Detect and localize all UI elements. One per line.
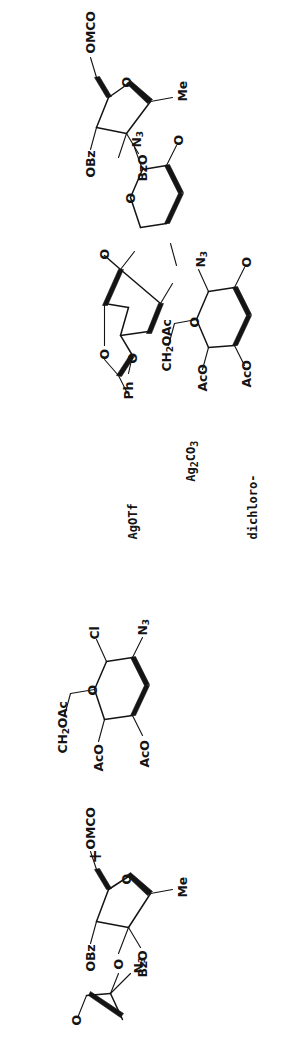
donor-chloride-label: Cl [88,626,101,639]
acceptor-omco-label: OMCO [84,807,97,849]
reagent-co: CO [183,446,197,460]
product-azide-left-subscript: 3 [198,251,208,257]
reaction-conditions: AgOTf Ag2CO3 dichloro- methane [96,440,285,539]
donor-aco-top-label: AcO [92,744,105,771]
product-ch2oac-label: CH2OAc [160,319,174,371]
product-aco-bottom-label: AcO [240,360,253,387]
donor-ch2oac-ch: CH [54,734,69,753]
acceptor-azide-n: N [130,963,145,973]
product-middle-ring-oxygen-label: O [124,193,137,203]
acceptor-azide-subscript: 3 [136,957,146,963]
donor-ch2oac-subscript: 2 [60,728,70,734]
product-glycosidic-oxygen-left-label: O [240,257,253,267]
acceptor-me-label: Me [176,876,189,897]
product-acetal-oxygen-lower-label: O [126,353,139,363]
donor-azide-n: N [134,625,149,635]
product-ch2oac-subscript: 2 [164,346,174,352]
product-azide-mid-n: N [128,137,143,147]
plus-sign: + [86,849,103,863]
acceptor-azide-label: N3 [132,957,146,973]
product-ch2oac-tail: OAc [158,319,173,346]
product-ch2oac-ch: CH [158,352,173,371]
donor-ch2oac-tail: OAc [54,701,69,728]
product-bzo-label: BzO [136,154,149,181]
product-aco-top-label: AcO [196,364,209,391]
acceptor-obz-label: OBz [84,944,97,971]
product-me-label: Me [176,80,189,101]
acceptor-glycosidic-oxygen-label: O [112,959,125,969]
product-omco-label: OMCO [84,11,97,53]
product-azide-left-n: N [192,257,207,267]
acceptor-ring-oxygen-label: O [120,874,133,884]
donor-ring-oxygen-label: O [86,685,99,695]
product-skeleton [0,3,285,403]
donor-ch2oac-label: CH2OAc [56,701,70,753]
product-azide-left-label: N3 [194,251,208,267]
product-right-ring-oxygen-label: O [120,77,133,87]
acceptor-left-ring-oxygen-label: O [70,1015,83,1025]
reagent-line-3: dichloro- [245,440,260,539]
reagent-co-subscript: 3 [188,440,199,446]
product-acetal-oxygen-upper-label: O [98,349,111,359]
product-glycosidic-oxygen-mid-label: O [172,135,185,145]
product-acetyl-ring-oxygen-label: O [188,317,201,327]
product-left-ring-oxygen-label: O [98,249,111,259]
donor-azide-label: N3 [136,619,150,635]
donor-aco-bottom-label: AcO [138,740,151,767]
rotated-scheme-canvas: OBz OMCO O BzO Me O N3 O + [0,0,285,1039]
product-obz-label: OBz [84,150,97,177]
product-ph-label: Ph [122,381,135,399]
donor-azide-subscript: 3 [140,619,150,625]
reagent-ag: Ag [183,467,197,481]
product-azide-mid-label: N3 [130,131,144,147]
reagent-line-1: AgOTf [125,440,140,539]
reagent-line-2: Ag2CO3 [169,440,217,539]
scheme-sheet: OBz OMCO O BzO Me O N3 O + [0,0,285,1039]
reagent-ag-subscript: 2 [188,461,199,467]
acceptor-skeleton [0,839,285,1039]
product-azide-mid-subscript: 3 [134,131,144,137]
